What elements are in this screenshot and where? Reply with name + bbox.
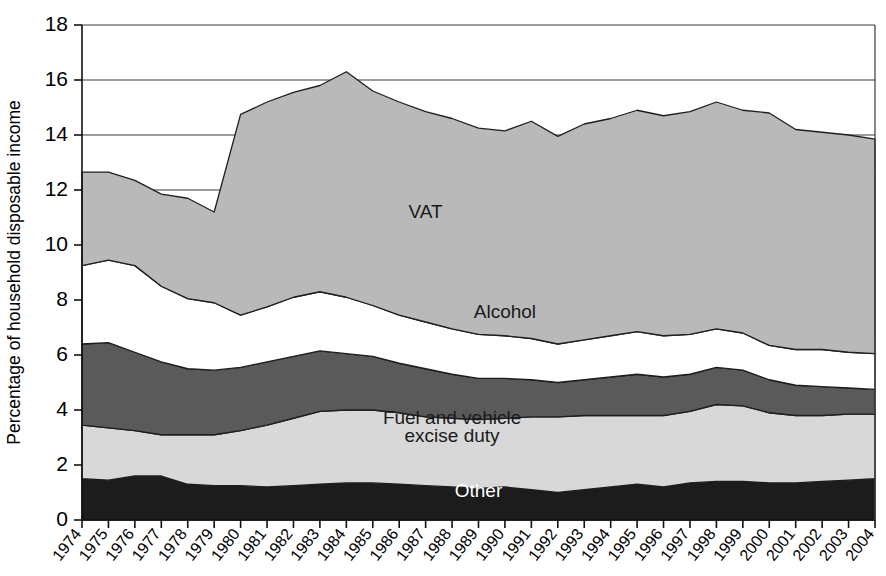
x-tick-label-1977: 1977 (128, 525, 163, 564)
x-tick-label-1981: 1981 (234, 525, 269, 564)
series-label-tobacco: Tobacco (443, 353, 514, 374)
y-tick-label-2: 2 (56, 452, 68, 475)
x-tick-label-2004: 2004 (842, 525, 877, 564)
y-tick-label-0: 0 (56, 507, 68, 530)
x-tick-label-1987: 1987 (393, 525, 428, 564)
x-tick-label-1996: 1996 (631, 525, 666, 564)
y-axis-title-group: Percentage of household disposable incom… (4, 100, 24, 444)
x-tick-label-1988: 1988 (419, 525, 454, 564)
y-tick-label-6: 6 (56, 342, 68, 365)
x-tick-label-1974: 1974 (49, 525, 84, 564)
x-tick-label-1997: 1997 (657, 525, 692, 564)
y-tick-label-14: 14 (45, 122, 69, 145)
x-tick-label-1975: 1975 (75, 525, 110, 564)
series-label-excise-duty: excise duty (405, 425, 501, 446)
x-tick-label-1994: 1994 (578, 525, 613, 564)
x-tick-label-1998: 1998 (683, 525, 718, 564)
x-tick-label-1980: 1980 (208, 525, 243, 564)
series-label-alcohol: Alcohol (474, 301, 536, 322)
series-label-other: Other (455, 480, 503, 501)
x-tick-label-1985: 1985 (340, 525, 375, 564)
x-tick-label-1993: 1993 (551, 525, 586, 564)
x-tick-labels-group: 1974197519761977197819791980198119821983… (49, 525, 877, 564)
y-tick-label-16: 16 (45, 67, 68, 90)
y-tick-labels-group: 024681012141618 (45, 12, 69, 530)
x-tick-label-1991: 1991 (498, 525, 533, 564)
series-label-vat: VAT (409, 201, 444, 222)
x-tick-label-1990: 1990 (472, 525, 507, 564)
y-axis-title: Percentage of household disposable incom… (4, 100, 24, 444)
x-tick-label-2000: 2000 (736, 525, 771, 564)
y-tick-label-18: 18 (45, 12, 68, 35)
x-tick-label-1982: 1982 (261, 525, 296, 564)
x-tick-label-1995: 1995 (604, 525, 639, 564)
x-tick-label-1986: 1986 (366, 525, 401, 564)
x-tick-label-1976: 1976 (102, 525, 137, 564)
x-tick-label-1999: 1999 (710, 525, 745, 564)
plot-areas-group (82, 72, 875, 520)
stacked-area-chart: 024681012141618 197419751976197719781979… (0, 0, 886, 576)
x-tick-label-1984: 1984 (313, 525, 348, 564)
x-tick-label-2002: 2002 (789, 525, 824, 564)
x-tick-label-1978: 1978 (155, 525, 190, 564)
x-tick-label-1983: 1983 (287, 525, 322, 564)
x-tick-label-1979: 1979 (181, 525, 216, 564)
chart-canvas: 024681012141618 197419751976197719781979… (0, 0, 886, 576)
y-tick-label-12: 12 (45, 177, 68, 200)
x-tick-label-1989: 1989 (446, 525, 481, 564)
y-tick-label-4: 4 (56, 397, 68, 420)
x-tick-label-2001: 2001 (763, 525, 798, 564)
y-tick-label-10: 10 (45, 232, 68, 255)
x-tick-label-2003: 2003 (816, 525, 851, 564)
x-tick-label-1992: 1992 (525, 525, 560, 564)
y-tick-label-8: 8 (56, 287, 68, 310)
